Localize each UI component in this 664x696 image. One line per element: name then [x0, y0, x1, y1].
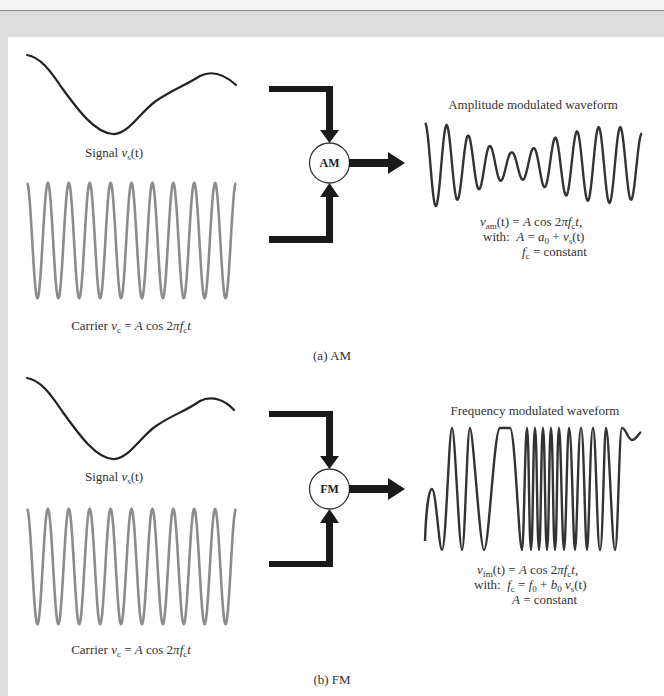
am-formula-line-1: vam(t) = A cos 2πfct,	[480, 214, 587, 229]
am-carrier-arrowhead	[320, 183, 339, 197]
fm-carrier-input-arrow	[269, 519, 333, 567]
am-output-arrow-shaft	[349, 159, 391, 167]
am-formula-line-3: fc = constant	[480, 244, 587, 259]
am-formula: vam(t) = A cos 2πfct, with: A = a0 + vs(…	[480, 214, 587, 259]
fm-output-arrow-shaft	[349, 485, 391, 493]
fm-carrier-label: Carrier vc = A cos 2πfct	[71, 642, 191, 658]
fm-output-title: Frequency modulated waveform	[451, 403, 620, 419]
fm-output-arrowhead	[388, 478, 405, 500]
fm-signal-arrowhead	[320, 456, 339, 469]
fm-caption: (b) FM	[313, 672, 350, 688]
am-signal-label: Signal vs(t)	[85, 145, 143, 161]
am-output-arrowhead	[388, 152, 405, 174]
fm-carrier-wave	[27, 509, 236, 624]
am-signal-arrowhead	[320, 130, 339, 143]
am-signal-curve	[27, 55, 236, 134]
am-carrier-wave	[27, 183, 236, 298]
am-formula-line-2: with: A = a0 + vs(t)	[480, 229, 587, 244]
fm-formula-line-3: A = constant	[474, 592, 587, 607]
am-block-label: AM	[320, 156, 340, 171]
am-signal-input-arrow	[269, 86, 333, 135]
fm-carrier-arrowhead	[320, 509, 339, 523]
am-carrier-input-arrow	[269, 193, 333, 243]
fm-formula-line-1: vfm(t) = A cos 2πfct,	[474, 562, 587, 577]
fm-block-label: FM	[320, 482, 339, 497]
am-carrier-label: Carrier vc = A cos 2πfct	[71, 318, 191, 334]
fm-signal-curve	[27, 378, 234, 459]
fm-signal-input-arrow	[269, 411, 333, 461]
am-output-title: Amplitude modulated waveform	[448, 97, 618, 113]
fm-signal-label: Signal vs(t)	[85, 469, 143, 485]
fm-formula: vfm(t) = A cos 2πfct, with: fc = f0 + b0…	[474, 562, 587, 607]
fm-modulated-waveform	[425, 428, 641, 550]
am-caption: (a) AM	[313, 348, 351, 364]
am-modulated-waveform	[425, 123, 642, 206]
fm-formula-line-2: with: fc = f0 + b0 vs(t)	[474, 577, 587, 592]
